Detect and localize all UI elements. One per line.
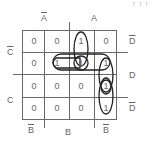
label-c: C <box>7 96 14 105</box>
cell-r1-c1: 0 <box>22 30 46 52</box>
label-not-c: C <box>7 48 14 57</box>
label-not-d-top: D <box>129 37 136 46</box>
cell-r2-c3: 1 <box>69 52 93 74</box>
cell-r4-c1: 0 <box>22 97 46 119</box>
cell-r3-c1: 0 <box>22 75 46 97</box>
cell-r1-c4: 0 <box>94 30 118 52</box>
cell-r3-c3: 0 <box>69 75 93 97</box>
label-a: A <box>91 14 97 23</box>
cell-r4-c4: 1 <box>94 97 118 119</box>
cell-r4-c2: 0 <box>45 97 69 119</box>
cell-r3-c2: 0 <box>45 75 69 97</box>
cell-r3-c4: 1 <box>94 75 118 97</box>
label-not-a: A <box>41 14 47 23</box>
label-not-d-bottom: D <box>129 104 136 113</box>
cell-r2-c1: 0 <box>22 52 46 74</box>
cell-r1-c3: 1 <box>69 30 93 52</box>
cell-r2-c2: 1 <box>45 52 69 74</box>
cell-r1-c2: 0 <box>45 30 69 52</box>
label-not-b-right: B <box>103 126 109 135</box>
karnaugh-map: r r r A A C C D D D B B B <box>0 0 153 149</box>
label-b: B <box>65 128 71 137</box>
label-d: D <box>129 71 136 80</box>
label-not-b-left: B <box>28 126 34 135</box>
cell-r2-c4: 1 <box>94 52 118 74</box>
cell-r4-c3: 0 <box>69 97 93 119</box>
